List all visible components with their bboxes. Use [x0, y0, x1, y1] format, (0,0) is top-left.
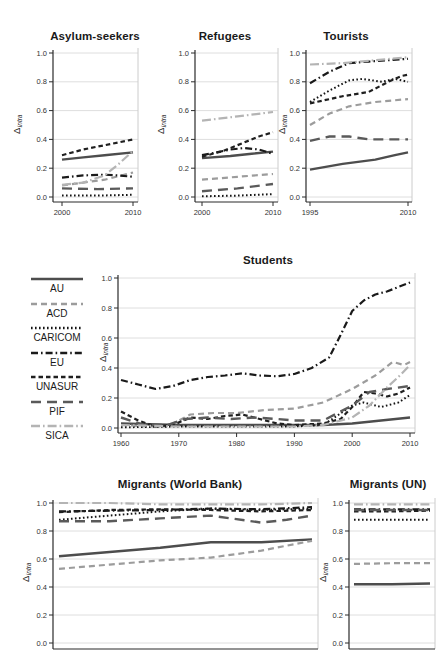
- y-axis-label-migrants-wb: Δintra: [20, 553, 31, 593]
- legend-line-sica-icon: [30, 423, 84, 429]
- svg-text:1.0: 1.0: [333, 499, 343, 508]
- svg-text:0.0: 0.0: [37, 639, 47, 648]
- legend-item-acd: ACD: [22, 301, 92, 319]
- svg-text:0.0: 0.0: [102, 424, 112, 433]
- svg-text:1.0: 1.0: [37, 49, 47, 58]
- legend-line-pif-icon: [30, 399, 84, 405]
- y-axis-label-asylum: Δintra: [11, 105, 22, 145]
- panel-title-migrants-un: Migrants (UN): [350, 478, 427, 490]
- panel-title-tourists: Tourists: [323, 30, 368, 42]
- panel-title-migrants-world-bank: Migrants (World Bank): [118, 478, 243, 490]
- svg-text:0.0: 0.0: [37, 193, 47, 202]
- svg-text:0.2: 0.2: [37, 164, 47, 173]
- series-acd: [354, 563, 430, 564]
- legend-label-pif: PIF: [22, 406, 92, 417]
- y-axis-label-tourists: Δintra: [276, 105, 287, 145]
- panel-asylum: 0.00.20.40.60.81.020002010: [37, 48, 142, 217]
- legend-label-caricom: CARICOM: [22, 332, 92, 343]
- panel-wb: 0.00.20.40.60.81.0: [37, 498, 318, 649]
- panel-tourists: 0.00.20.40.60.81.019952010: [290, 48, 417, 217]
- svg-text:0.4: 0.4: [37, 583, 47, 592]
- panel-title-students: Students: [243, 254, 293, 266]
- svg-text:0.4: 0.4: [37, 135, 47, 144]
- legend-item-pif: PIF: [22, 399, 92, 417]
- svg-text:2000: 2000: [344, 439, 361, 448]
- svg-text:1.0: 1.0: [179, 49, 189, 58]
- svg-text:1.0: 1.0: [37, 499, 47, 508]
- svg-text:0.0: 0.0: [333, 639, 343, 648]
- svg-text:0.6: 0.6: [37, 106, 47, 115]
- y-axis-label-refugees: Δintra: [155, 105, 166, 145]
- svg-text:0.2: 0.2: [179, 164, 189, 173]
- legend-label-sica: SICA: [22, 430, 92, 441]
- svg-text:0.8: 0.8: [333, 527, 343, 536]
- panel-title-refugees: Refugees: [199, 30, 252, 42]
- series-caricom: [62, 195, 133, 196]
- panel-refugees: 0.00.20.40.60.81.020002010: [179, 48, 282, 217]
- svg-text:0.4: 0.4: [179, 135, 189, 144]
- svg-text:2010: 2010: [265, 208, 282, 217]
- legend-item-unasur: UNASUR: [22, 374, 92, 392]
- y-axis-label-students: Δintra: [97, 333, 108, 373]
- legend-label-eu: EU: [22, 357, 92, 368]
- legend-line-au-icon: [30, 276, 84, 282]
- series-pif: [310, 137, 408, 141]
- svg-text:0.8: 0.8: [102, 304, 112, 313]
- panel-students: 0.00.20.40.60.81.01960197019801990200020…: [102, 273, 419, 448]
- legend-label-acd: ACD: [22, 308, 92, 319]
- series-pif: [59, 516, 312, 523]
- legend-item-eu: EU: [22, 350, 92, 368]
- svg-text:0.6: 0.6: [179, 106, 189, 115]
- series-pif: [62, 188, 133, 189]
- svg-text:0.2: 0.2: [37, 611, 47, 620]
- y-axis-label-migrants-un: Δintra: [317, 553, 328, 593]
- legend-line-unasur-icon: [30, 374, 84, 380]
- figure-intra-regional-mobility: 0.00.20.40.60.81.0200020100.00.20.40.60.…: [0, 0, 437, 650]
- svg-text:0.6: 0.6: [290, 106, 300, 115]
- series-au: [310, 152, 408, 169]
- legend-line-eu-icon: [30, 350, 84, 356]
- series-acd: [310, 99, 408, 125]
- series-au: [59, 539, 312, 556]
- svg-text:0.6: 0.6: [37, 555, 47, 564]
- svg-text:1.0: 1.0: [102, 274, 112, 283]
- svg-text:2010: 2010: [125, 208, 142, 217]
- svg-text:0.2: 0.2: [333, 611, 343, 620]
- svg-text:1.0: 1.0: [290, 49, 300, 58]
- svg-text:0.8: 0.8: [37, 77, 47, 86]
- series-acd: [202, 174, 273, 180]
- svg-text:0.4: 0.4: [290, 135, 300, 144]
- series-pif: [202, 184, 273, 191]
- legend-label-unasur: UNASUR: [22, 381, 92, 392]
- legend-item-caricom: CARICOM: [22, 325, 92, 343]
- svg-text:1970: 1970: [170, 439, 187, 448]
- svg-text:0.6: 0.6: [333, 555, 343, 564]
- svg-text:1960: 1960: [113, 439, 130, 448]
- series-eu: [121, 283, 410, 390]
- svg-text:1995: 1995: [302, 208, 319, 217]
- legend: AU ACD CARICOM EU UNASUR PIF SICA: [22, 276, 92, 448]
- legend-label-au: AU: [22, 283, 92, 294]
- svg-text:1980: 1980: [228, 439, 245, 448]
- svg-text:2000: 2000: [194, 208, 211, 217]
- svg-text:0.2: 0.2: [102, 394, 112, 403]
- svg-text:2010: 2010: [400, 208, 417, 217]
- svg-text:2000: 2000: [54, 208, 71, 217]
- series-au: [354, 584, 430, 585]
- svg-text:0.8: 0.8: [179, 77, 189, 86]
- series-caricom: [310, 79, 408, 102]
- series-acd: [121, 362, 410, 427]
- series-caricom: [202, 194, 273, 196]
- svg-text:1990: 1990: [286, 439, 303, 448]
- series-sica: [202, 112, 273, 121]
- svg-text:0.8: 0.8: [37, 527, 47, 536]
- svg-text:0.4: 0.4: [333, 583, 343, 592]
- svg-text:0.2: 0.2: [290, 164, 300, 173]
- panel-title-asylum-seekers: Asylum-seekers: [50, 30, 140, 42]
- svg-text:0.0: 0.0: [179, 193, 189, 202]
- legend-item-au: AU: [22, 276, 92, 294]
- legend-line-caricom-icon: [30, 325, 84, 331]
- panel-un: 0.00.20.40.60.81.0: [333, 498, 435, 649]
- svg-text:0.0: 0.0: [290, 193, 300, 202]
- svg-text:2010: 2010: [402, 439, 419, 448]
